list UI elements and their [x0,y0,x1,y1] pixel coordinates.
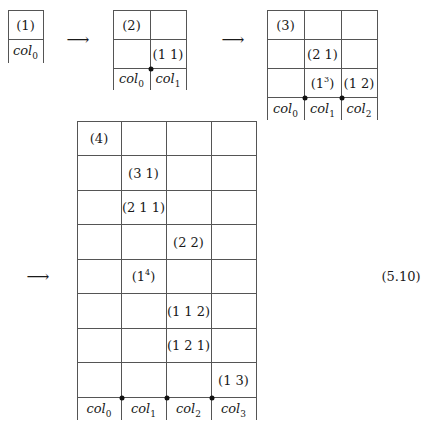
column-label-index: 2 [195,408,201,418]
entry-text: (3) [276,17,294,32]
column-label-index: 3 [240,408,246,418]
grid-line-vertical [377,10,378,120]
column-label-base: col [87,401,106,416]
entry-text: (1) [16,17,34,32]
junction-dot [148,66,153,71]
composition-entry: (2 1) [307,46,338,61]
column-label: col1 [131,401,156,419]
composition-entry: (1 1 2) [167,303,210,318]
grid-line-horizontal [77,259,257,260]
composition-entry: (1 1) [153,46,184,61]
grid-line-vertical [166,121,167,420]
grid-line-horizontal [267,97,378,98]
right-arrow-icon: ⟶ [222,30,245,49]
grid-line-horizontal [77,293,257,294]
composition-entry: (1 3) [218,372,249,387]
entry-text: (2 1) [307,46,338,61]
junction-dot [119,395,124,400]
junction-dot [302,95,307,100]
right-arrow-icon: ⟶ [27,267,50,286]
column-label-base: col [347,101,366,116]
column-label-index: 1 [175,79,181,89]
grid-line-vertical [186,10,187,90]
column-label-index: 0 [138,79,144,89]
grid-line-vertical [304,10,305,120]
entry-text: (1 2) [344,75,375,90]
column-label-base: col [221,401,240,416]
grid-line-horizontal [8,10,44,11]
entry-text: (2) [122,17,140,32]
composition-entry: (13) [311,75,335,90]
composition-entry: (4) [90,131,108,146]
entry-close-paren: ) [150,269,155,284]
composition-entry: (2 2) [173,234,204,249]
composition-entry: (1 2 1) [167,338,210,353]
entry-text: (4) [90,131,108,146]
entry-text: (1 1 2) [167,303,210,318]
column-label: col2 [176,401,201,419]
junction-dot [339,95,344,100]
grid-line-horizontal [77,190,257,191]
column-label-base: col [273,101,292,116]
grid-line-vertical [8,10,9,63]
grid-line-horizontal [77,224,257,225]
entry-text: (1 2 1) [167,338,210,353]
grid-line-vertical [267,10,268,120]
grid-line-vertical [77,121,78,420]
column-label-index: 0 [32,51,38,61]
column-label: col1 [310,101,335,119]
column-label-base: col [310,101,329,116]
grid-line-horizontal [77,121,257,122]
entry-text: (2 1 1) [122,200,165,215]
composition-entry: (1 2) [344,75,375,90]
column-label: col3 [221,401,246,419]
entry-text: (1 1) [153,46,184,61]
grid-line-horizontal [267,68,378,69]
column-label-base: col [176,401,195,416]
entry-text: (2 2) [173,234,204,249]
composition-entry: (3 1) [128,165,159,180]
column-label-index: 2 [366,108,372,118]
equation-number: (5.10) [381,269,420,284]
junction-dot [209,395,214,400]
column-label: col2 [347,101,372,119]
entry-text: (3 1) [128,165,159,180]
entry-text: (1 3) [218,372,249,387]
junction-dot [164,395,169,400]
composition-entry: (1) [16,17,34,32]
entry-close-paren: ) [329,75,334,90]
entry-text: (1 [311,75,324,90]
column-label-index: 1 [329,108,335,118]
column-label: col1 [156,71,181,89]
column-label-base: col [131,401,150,416]
composition-entry: (14) [132,268,156,283]
grid-line-horizontal [77,362,257,363]
grid-line-horizontal [77,328,257,329]
column-label: col0 [13,43,38,61]
grid-line-vertical [256,121,257,420]
grid-line-vertical [341,10,342,120]
entry-text: (1 [132,269,145,284]
grid-line-horizontal [8,39,44,40]
column-label-index: 1 [150,408,156,418]
composition-entry: (3) [276,17,294,32]
grid-line-vertical [113,10,114,90]
column-label-base: col [156,71,175,86]
column-label-index: 0 [106,408,112,418]
grid-line-vertical [211,121,212,420]
column-label: col0 [273,101,298,119]
column-label-index: 0 [292,108,298,118]
grid-line-horizontal [267,39,378,40]
grid-line-horizontal [77,155,257,156]
column-label-base: col [119,71,138,86]
column-label-base: col [13,43,32,58]
composition-entry: (2 1 1) [122,200,165,215]
grid-line-vertical [121,121,122,420]
composition-entry: (2) [122,17,140,32]
column-label: col0 [87,401,112,419]
grid-line-vertical [43,10,44,63]
grid-line-horizontal [267,10,378,11]
grid-line-vertical [150,10,151,90]
right-arrow-icon: ⟶ [67,30,90,49]
column-label: col0 [119,71,144,89]
